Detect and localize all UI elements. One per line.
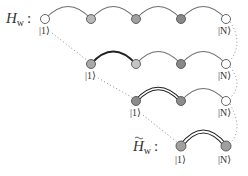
ket-first-row-2: |1⟩ <box>85 70 96 81</box>
ket-last-row-4: |N⟩ <box>218 154 231 165</box>
ket-first-row-3: |1⟩ <box>130 107 141 118</box>
site-node <box>222 97 231 106</box>
site-node <box>222 60 231 69</box>
site-node <box>221 141 231 151</box>
row-2-bonds <box>91 52 226 65</box>
ket-last-row-1: |N⟩ <box>218 25 231 36</box>
site-node <box>41 15 50 24</box>
ket-last-row-2: |N⟩ <box>218 70 231 81</box>
ket-last-row-3: |N⟩ <box>218 107 231 118</box>
hamiltonian-label: Hw: <box>5 10 31 28</box>
site-node <box>177 15 186 24</box>
site-node <box>176 141 186 151</box>
effective-hamiltonian-label: Hw: <box>132 137 158 156</box>
row-2-sites <box>87 60 231 69</box>
chain-reduction-diagram: Hw: Hw: <box>0 0 248 176</box>
site-node <box>87 60 96 69</box>
row-4-sites <box>176 141 231 151</box>
site-node <box>87 15 96 24</box>
ket-first-row-4: |1⟩ <box>175 154 186 165</box>
ket-first-row-1: |1⟩ <box>39 25 50 36</box>
site-node <box>132 60 141 69</box>
right-dotted-connectors <box>230 22 237 143</box>
site-node <box>222 15 231 24</box>
row-4-bonds <box>181 132 226 147</box>
site-node <box>177 97 186 106</box>
row-1-sites <box>41 15 231 24</box>
svg-text:Hw:: Hw: <box>132 138 158 156</box>
site-node <box>132 15 141 24</box>
site-node <box>132 97 141 106</box>
row-3-sites <box>132 97 231 106</box>
site-node <box>177 60 186 69</box>
